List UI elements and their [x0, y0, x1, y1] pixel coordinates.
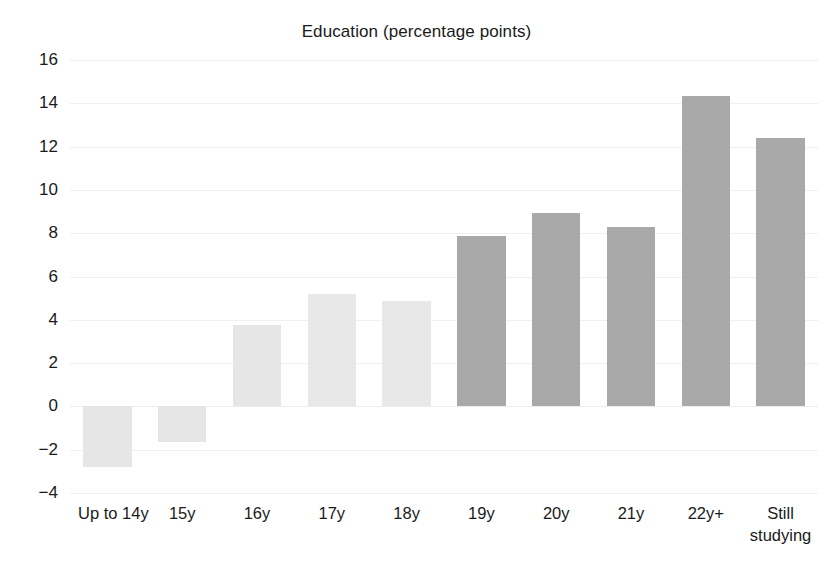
chart-title: Education (percentage points) [0, 22, 833, 42]
x-tick-label: 19y [444, 502, 519, 524]
y-tick-label: −2 [14, 440, 58, 460]
bar[interactable] [532, 213, 580, 407]
bar[interactable] [682, 96, 730, 407]
y-tick-label: 12 [14, 137, 58, 157]
y-axis-tick-labels: 1614121086420−2−4 [14, 60, 58, 493]
y-tick-label: 16 [14, 50, 58, 70]
x-tick-label: Still studying [740, 502, 821, 546]
x-tick-label: 22y+ [668, 502, 743, 524]
y-tick-label: −4 [14, 483, 58, 503]
bar[interactable] [158, 406, 206, 442]
x-axis-tick-labels: Up to 14y15y16y17y18y19y20y21y22y+Still … [70, 502, 818, 572]
bar[interactable] [83, 406, 131, 467]
x-tick-label: 20y [519, 502, 594, 524]
x-tick-label: 17y [294, 502, 369, 524]
gridline--4 [70, 493, 818, 494]
x-tick-label: 15y [145, 502, 220, 524]
y-tick-label: 0 [14, 396, 58, 416]
y-tick-label: 2 [14, 353, 58, 373]
bar[interactable] [382, 301, 430, 406]
y-tick-label: 4 [14, 310, 58, 330]
x-tick-label: 21y [594, 502, 669, 524]
y-tick-label: 10 [14, 180, 58, 200]
bar[interactable] [756, 138, 804, 406]
bar[interactable] [233, 325, 281, 406]
y-tick-label: 14 [14, 93, 58, 113]
bar[interactable] [457, 236, 505, 406]
x-tick-label: 18y [369, 502, 444, 524]
chart-figure: Education (percentage points) 1614121086… [0, 0, 833, 577]
plot-area [70, 60, 818, 493]
bar[interactable] [607, 227, 655, 407]
x-tick-label: 16y [220, 502, 295, 524]
y-tick-label: 8 [14, 223, 58, 243]
gridline-16 [70, 60, 818, 61]
bar[interactable] [308, 294, 356, 407]
gridline--2 [70, 450, 818, 451]
y-tick-label: 6 [14, 267, 58, 287]
